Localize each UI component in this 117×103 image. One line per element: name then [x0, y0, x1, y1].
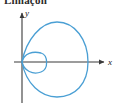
limacon-inner-loop: [22, 52, 47, 73]
limacon-figure: Limaçon y x: [0, 0, 117, 103]
x-axis-label: x: [107, 57, 112, 67]
limacon-outer-loop: [22, 22, 88, 97]
limacon-plot: y x: [0, 0, 117, 103]
y-axis-label: y: [24, 8, 29, 18]
